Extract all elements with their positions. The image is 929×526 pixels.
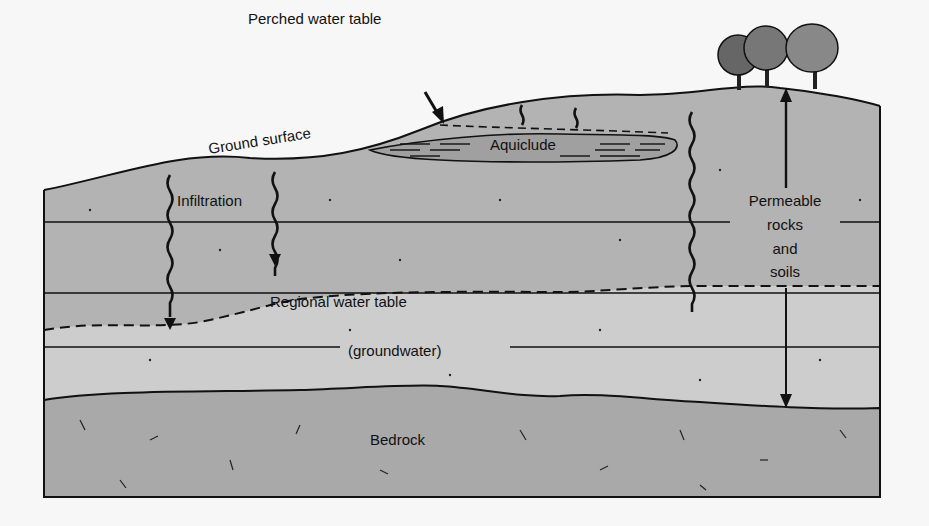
- permeable-label-2: rocks: [730, 216, 840, 234]
- groundwater-label: (groundwater): [348, 342, 441, 360]
- permeable-label-4: soils: [730, 263, 840, 281]
- infiltration-label: Infiltration: [177, 192, 242, 210]
- bedrock-label: Bedrock: [370, 431, 425, 449]
- aquiclude-label: Aquiclude: [490, 136, 556, 154]
- regional-water-table-label: Regional water table: [270, 293, 407, 311]
- permeable-label-1: Permeable: [730, 192, 840, 210]
- trees-icon: [718, 24, 838, 90]
- permeable-label-3: and: [730, 240, 840, 258]
- perched-water-table-label: Perched water table: [248, 10, 381, 28]
